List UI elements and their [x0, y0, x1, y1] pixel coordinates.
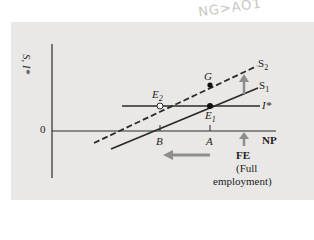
x-axis-label: NP — [262, 134, 277, 146]
fe-desc-line1: (Full — [236, 162, 257, 174]
tick-a-label: A — [206, 135, 213, 147]
g-label: G — [204, 70, 212, 82]
s2-label: S2 — [258, 57, 268, 72]
origin-label: 0 — [40, 123, 46, 135]
e1-label: E1 — [205, 109, 216, 124]
s1-label: S1 — [259, 79, 269, 94]
y-axis-label: S, I* — [21, 54, 33, 74]
fe-desc-line2: employment) — [213, 175, 272, 187]
left-shift-arrowhead — [163, 150, 173, 160]
point-e2 — [157, 103, 163, 109]
e2-label: E2 — [152, 88, 163, 103]
shift-up-arrowhead — [239, 74, 249, 82]
point-g — [207, 82, 212, 87]
fe-arrowhead — [239, 132, 249, 139]
fe-label: FE — [236, 149, 250, 161]
s1-line — [111, 88, 258, 149]
i-star-label: I* — [262, 99, 271, 111]
tick-b-label: B — [156, 135, 163, 147]
